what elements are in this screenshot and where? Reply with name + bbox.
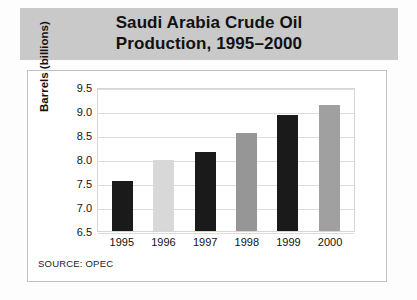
y-axis-tick-label: 8.0: [58, 154, 92, 166]
x-axis-tick-label: 1999: [268, 236, 308, 248]
y-axis-tick-label: 9.5: [58, 82, 92, 94]
x-axis-tick-labels: 199519961997199819992000: [97, 236, 355, 248]
y-axis-tick-label: 6.5: [58, 226, 92, 238]
gridline: [98, 233, 354, 234]
bar-1996: [153, 160, 174, 231]
chart-title: Saudi Arabia Crude Oil Production, 1995–…: [116, 13, 303, 54]
bar-1997: [195, 152, 216, 231]
bar-slot: [185, 89, 225, 231]
bar-slot: [309, 89, 349, 231]
bar-1995: [112, 181, 133, 231]
bar-slot: [227, 89, 267, 231]
chart-figure: Saudi Arabia Crude Oil Production, 1995–…: [0, 0, 417, 300]
bar-2000: [319, 105, 340, 231]
bar-slot: [144, 89, 184, 231]
title-band: Saudi Arabia Crude Oil Production, 1995–…: [20, 8, 398, 60]
x-axis-tick-label: 2000: [310, 236, 350, 248]
bar-slot: [268, 89, 308, 231]
y-axis-tick-labels: 9.59.08.58.07.57.06.5: [58, 80, 92, 240]
x-axis-tick-label: 1998: [227, 236, 267, 248]
bar-slot: [103, 89, 143, 231]
x-axis-tick-label: 1996: [143, 236, 183, 248]
x-axis-tick-label: 1997: [185, 236, 225, 248]
plot-area: [97, 88, 355, 232]
y-axis-tick-label: 7.0: [58, 202, 92, 214]
bar-1998: [236, 133, 257, 231]
bar-1999: [277, 115, 298, 231]
y-axis-title: Barrels (billions): [38, 96, 50, 112]
y-axis-tick-label: 9.0: [58, 106, 92, 118]
bar-series: [98, 89, 354, 231]
y-axis-tick-label: 7.5: [58, 178, 92, 190]
x-axis-tick-label: 1995: [102, 236, 142, 248]
y-axis-tick-label: 8.5: [58, 130, 92, 142]
source-note: SOURCE: OPEC: [38, 258, 113, 269]
